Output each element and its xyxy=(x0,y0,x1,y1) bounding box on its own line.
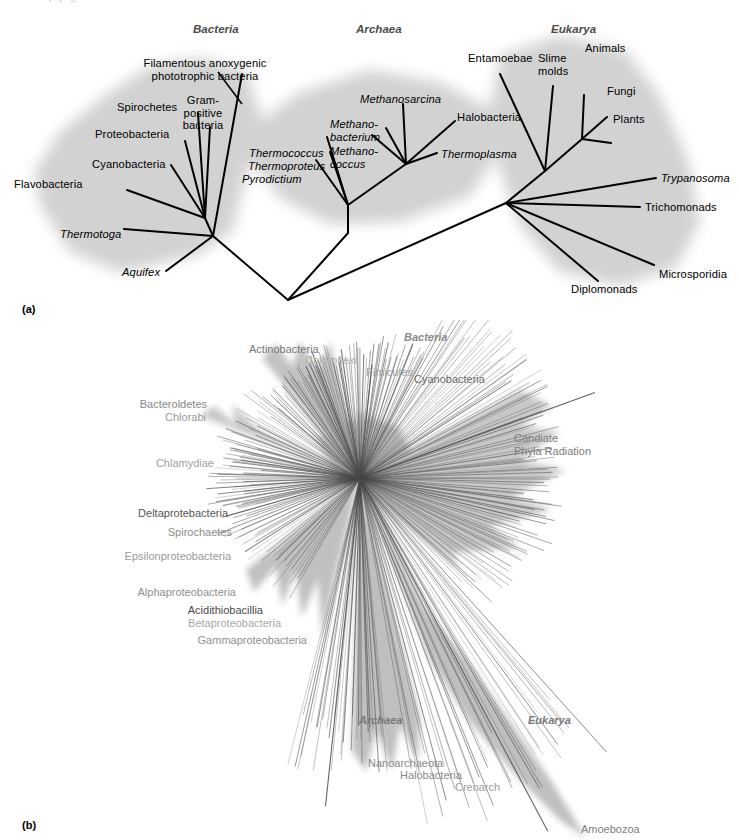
clade-label: Betaproteobacteria xyxy=(91,617,281,630)
taxon-label: Halobacteria xyxy=(457,111,521,124)
taxon-label: Entamoebae xyxy=(468,52,533,65)
taxon-label: Aquifex xyxy=(122,266,160,279)
clade-label: Amoebozoa xyxy=(581,823,640,836)
taxon-label: Fungi xyxy=(607,85,636,98)
taxon-label: Flavobacteria xyxy=(14,178,83,191)
taxon-label: Thermotoga xyxy=(60,228,121,241)
domain-header-archaea: Archaea xyxy=(356,22,402,35)
taxon-label: Cyanobacteria xyxy=(92,158,166,171)
clade-label: Halobacteria xyxy=(400,769,462,782)
clade-label: Candiate Phyla Radiation xyxy=(514,432,591,457)
panel-b: BacteriaActinobacteriaChloroflexiFimicut… xyxy=(0,320,739,840)
domain-label: Archaea xyxy=(359,714,402,727)
taxon-label: Plants xyxy=(613,113,645,126)
taxon-label: Microsporidia xyxy=(659,268,727,281)
taxon-label: Diplomonads xyxy=(571,283,638,296)
clade-label: Gammaproteobacteria xyxy=(117,634,307,647)
taxon-label: Methano- coccus xyxy=(330,145,378,170)
domain-label: Eukarya xyxy=(528,714,571,727)
clade-label: Acidithiobacillia xyxy=(73,604,263,617)
figure-root: …phylogenetic trees… xyxy=(0,0,739,840)
taxon-label: Trypanosoma xyxy=(661,172,730,185)
taxon-label: Proteobacteria xyxy=(95,128,169,141)
clade-label: Spirochaetes xyxy=(42,526,232,539)
clade-label: Fimicutes xyxy=(366,366,413,379)
clade-label: Epsilonproteobacteria xyxy=(41,550,231,563)
taxon-label: Filamentous anoxygenic phototrophic bact… xyxy=(120,57,290,82)
domain-label: Bacteria xyxy=(404,331,447,344)
taxon-label: Slime molds xyxy=(538,52,568,77)
clade-label: Chloroflexi xyxy=(305,354,357,367)
taxon-label: Thermoplasma xyxy=(441,148,517,161)
clade-label: Nanoarchaeota xyxy=(368,757,443,770)
taxon-label: Pyrodictium xyxy=(242,173,302,186)
taxon-label: Thermoproteus xyxy=(248,160,325,173)
taxon-label: Thermococcus xyxy=(249,147,324,160)
taxon-label: Trichomonads xyxy=(645,201,717,214)
clade-label: Deltaprotebacteria xyxy=(38,507,228,520)
clade-label: Cyanobacteria xyxy=(414,373,485,386)
domain-header-eukarya: Eukarya xyxy=(551,22,596,35)
panel-a-letter: (a) xyxy=(22,303,35,315)
taxon-label: Spirochetes xyxy=(117,101,177,114)
clade-label: Bacteroldetes xyxy=(17,398,207,411)
taxon-label: Animals xyxy=(585,42,626,55)
panel-b-letter: (b) xyxy=(22,819,36,831)
clade-label: Chlorabi xyxy=(16,411,206,424)
clade-label: Chlamydiae xyxy=(24,457,214,470)
taxon-label: Methano- bacterium xyxy=(330,118,380,143)
domain-header-bacteria: Bacteria xyxy=(193,22,239,35)
taxon-label: Methanosarcina xyxy=(360,93,441,106)
clade-label: Alphaproteobacteria xyxy=(46,586,236,599)
panel-a: Bacteria Archaea Eukarya Filamentous ano… xyxy=(0,0,739,330)
clade-label: Crenarch xyxy=(455,781,500,794)
